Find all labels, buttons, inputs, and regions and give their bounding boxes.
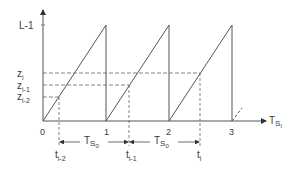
l-1-label: L-1 [19, 20, 34, 31]
x-tick-3: 3 [229, 127, 234, 137]
sawtooth-wave [43, 25, 232, 121]
continuation-dash [232, 108, 242, 121]
x-tick-2: 2 [166, 127, 171, 137]
t-i-1-label: ti-1 [126, 149, 137, 162]
sawtooth-diagram: L-1 zi zi-1 zi-2 0 1 2 3 TSI TS0 TS0 ti-… [0, 0, 299, 170]
interval-label-1: TS0 [84, 135, 99, 149]
x-tick-1: 1 [104, 127, 109, 137]
t-i-2-label: ti-2 [55, 149, 66, 162]
x-axis-label: TSI [269, 115, 282, 129]
interval-label-2: TS0 [154, 135, 169, 149]
t-i-label: ti [197, 149, 202, 162]
x-tick-0: 0 [40, 127, 45, 137]
